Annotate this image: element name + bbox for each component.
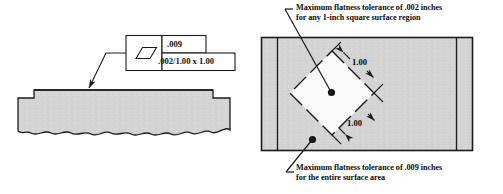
whole-surface-annotation-line1: Maximum flatness tolerance of .009 inche… [296,163,442,173]
part-profile [18,90,230,135]
fcf-leader [89,53,126,88]
unit-area-leader-dot [328,89,335,96]
dimension-label-lower: 1.00 [347,118,362,128]
unit-area-annotation: Maximum flatness tolerance of .002 inche… [296,3,442,23]
whole-surface-annotation-line2: for the entire surface area [296,173,442,183]
right-view [262,9,473,172]
unit-area-annotation-line2: for any 1-inch square surface region [296,13,442,23]
unit-area-annotation-line1: Maximum flatness tolerance of .002 inche… [296,3,442,13]
fcf-upper-value: .009 [167,39,182,49]
fcf-lower-value: .002/1.00 x 1.00 [158,56,214,66]
dimension-label-upper: 1.00 [352,57,367,67]
whole-surface-annotation: Maximum flatness tolerance of .009 inche… [296,163,442,183]
whole-surface-leader-dot [309,136,316,143]
left-view [18,36,235,136]
